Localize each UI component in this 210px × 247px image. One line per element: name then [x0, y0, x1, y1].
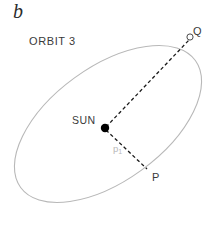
radius-vector-label: p1 [113, 144, 122, 154]
panel-letter: b [13, 1, 23, 21]
orbit-title-label: ORBIT 3 [29, 36, 76, 47]
bottom-caption [0, 238, 210, 247]
orbit-figure: b ORBIT 3 SUN Q P p1 [0, 0, 210, 247]
radius-label-subscript: 1 [118, 148, 122, 155]
aphelion-label: Q [193, 26, 202, 37]
radius-vector-aphelion [106, 39, 190, 127]
perihelion-label: P [152, 172, 159, 183]
sun-marker-icon [101, 124, 109, 132]
sun-label: SUN [72, 115, 95, 126]
